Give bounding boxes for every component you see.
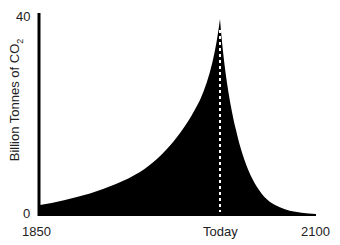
y-tick-0: 0 bbox=[23, 206, 30, 221]
y-axis-label-text: Billion Tonnes of CO bbox=[7, 44, 22, 162]
y-axis-label-subscript: 2 bbox=[15, 39, 25, 44]
emissions-area bbox=[40, 19, 316, 215]
chart: 40 0 1850 Today 2100 Billion Tonnes of C… bbox=[0, 0, 340, 245]
x-tick-1850: 1850 bbox=[22, 224, 51, 239]
y-axis-label: Billion Tonnes of CO2 bbox=[7, 39, 25, 162]
x-tick-2100: 2100 bbox=[301, 224, 330, 239]
y-tick-40: 40 bbox=[16, 9, 30, 24]
chart-plot bbox=[0, 0, 340, 245]
x-tick-today: Today bbox=[203, 224, 238, 239]
